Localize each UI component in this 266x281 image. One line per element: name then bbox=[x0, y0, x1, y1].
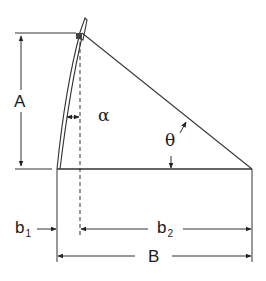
label-alpha: α bbox=[98, 107, 109, 124]
label-b1: b1 bbox=[15, 219, 30, 236]
rod-shape bbox=[57, 18, 87, 169]
label-b2-sub: 2 bbox=[167, 228, 173, 239]
label-b1-sub: 1 bbox=[25, 228, 31, 239]
label-theta: θ bbox=[165, 132, 175, 149]
diagram-drawing bbox=[0, 0, 266, 281]
label-b1-main: b bbox=[15, 218, 24, 237]
label-b2-main: b bbox=[157, 218, 166, 237]
label-b2: b2 bbox=[157, 219, 172, 236]
label-B: B bbox=[148, 248, 159, 265]
diagram-canvas: A α θ b1 b2 B bbox=[0, 0, 266, 281]
label-A: A bbox=[14, 93, 25, 110]
